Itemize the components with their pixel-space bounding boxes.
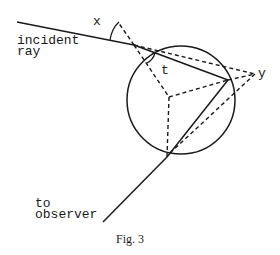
normal-entry-outside [118, 22, 134, 45]
reflection-to-y [228, 74, 255, 80]
exit-ray-line [103, 157, 167, 222]
point-y-label: y [258, 68, 266, 79]
observer-label: observer [35, 209, 97, 220]
angle-x-arc [110, 22, 119, 40]
reflected-ray-line [167, 80, 228, 157]
angle-x-label: x [93, 16, 101, 27]
radius-exit [167, 97, 169, 157]
ray-label: ray [17, 46, 40, 57]
angle-t-label: t [161, 65, 169, 76]
figure-caption: Fig. 3 [116, 232, 144, 247]
extension-exit-to-y [170, 74, 255, 153]
radius-reflection [169, 80, 228, 97]
